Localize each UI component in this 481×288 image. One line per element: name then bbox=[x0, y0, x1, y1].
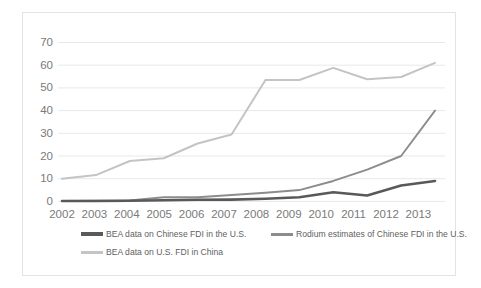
x-axis-tick-label: 2003 bbox=[77, 208, 111, 220]
legend-color-swatch-icon bbox=[271, 233, 293, 236]
chart-container: 70 60 50 40 30 20 10 0 2002 2003 2004 20… bbox=[22, 12, 456, 276]
legend-item-rodium-estimates[interactable]: Rodium estimates of Chinese FDI in the U… bbox=[271, 227, 467, 241]
x-axis-tick-label: 2010 bbox=[304, 208, 338, 220]
legend-color-swatch-icon bbox=[81, 232, 103, 236]
legend-item-label: BEA data on U.S. FDI in China bbox=[106, 247, 223, 257]
series-lines bbox=[62, 63, 435, 201]
x-axis-tick-label: 2004 bbox=[110, 208, 144, 220]
x-axis-tick-label: 2007 bbox=[207, 208, 241, 220]
legend-item-label: Rodium estimates of Chinese FDI in the U… bbox=[296, 229, 467, 239]
legend-color-swatch-icon bbox=[81, 251, 103, 254]
gridlines bbox=[58, 43, 445, 202]
legend-item-bea-us-fdi-china[interactable]: BEA data on U.S. FDI in China bbox=[81, 245, 223, 259]
x-axis-tick-label: 2012 bbox=[369, 208, 403, 220]
x-axis-tick-label: 2011 bbox=[337, 208, 371, 220]
legend-item-label: BEA data on Chinese FDI in the U.S. bbox=[106, 229, 246, 239]
series-line bbox=[62, 181, 435, 201]
x-axis-tick-label: 2002 bbox=[45, 208, 79, 220]
legend-item-bea-chinese-fdi-us[interactable]: BEA data on Chinese FDI in the U.S. bbox=[81, 227, 246, 241]
x-axis-tick-label: 2009 bbox=[272, 208, 306, 220]
x-axis-tick-label: 2006 bbox=[175, 208, 209, 220]
x-axis-tick-label: 2005 bbox=[142, 208, 176, 220]
series-line bbox=[62, 63, 435, 179]
x-axis-tick-label: 2008 bbox=[239, 208, 273, 220]
x-axis-tick-label: 2013 bbox=[401, 208, 435, 220]
chart-legend: BEA data on Chinese FDI in the U.S. Rodi… bbox=[55, 227, 450, 269]
